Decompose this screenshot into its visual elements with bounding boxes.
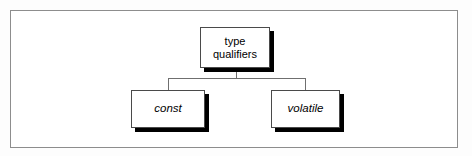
figure-root: type qualifiers const volatile bbox=[0, 0, 472, 156]
node-const: const bbox=[131, 90, 205, 128]
node-volatile-label: volatile bbox=[288, 102, 324, 116]
node-type-qualifiers: type qualifiers bbox=[200, 27, 270, 68]
node-const-label: const bbox=[154, 102, 182, 116]
node-volatile: volatile bbox=[271, 90, 340, 128]
connector-horizontal-rail bbox=[168, 78, 306, 79]
node-type-qualifiers-label: type qualifiers bbox=[213, 35, 257, 61]
